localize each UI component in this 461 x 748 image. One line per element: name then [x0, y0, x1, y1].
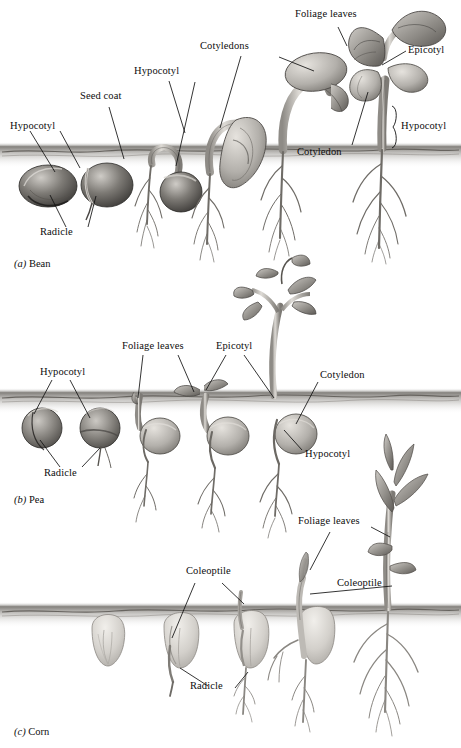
label-bean-cotyledon: Cotyledon	[297, 146, 342, 157]
label-bean-cotyledons: Cotyledons	[200, 40, 249, 51]
label-pea-hypocotyl-right: Hypocotyl	[305, 448, 350, 459]
bean-stage-1	[19, 165, 77, 207]
label-pea-cotyledon: Cotyledon	[320, 369, 365, 380]
label-pea-foliage-leaves: Foliage leaves	[122, 340, 184, 351]
bean-stage-4	[192, 117, 266, 262]
caption-corn: (c) Corn	[14, 726, 49, 737]
label-corn-coleoptile-left: Coleoptile	[186, 565, 231, 576]
label-bean-foliage-leaves: Foliage leaves	[295, 8, 357, 19]
pea-stage-1	[22, 408, 62, 450]
pea-stage-2	[80, 408, 120, 468]
soil-line-pea	[0, 388, 461, 414]
caption-pea: (b) Pea	[14, 494, 44, 505]
germination-figure: Hypocotyl Radicle Seed coat Hypocotyl Co…	[0, 0, 461, 748]
label-corn-foliage-leaves: Foliage leaves	[298, 515, 360, 526]
label-corn-radicle: Radicle	[190, 680, 223, 691]
label-bean-seed-coat: Seed coat	[80, 90, 121, 101]
label-bean-epicotyl: Epicotyl	[408, 44, 444, 55]
caption-corn-tag: (c)	[14, 726, 26, 737]
caption-corn-name: Corn	[28, 726, 49, 737]
caption-pea-tag: (b)	[14, 494, 26, 505]
caption-pea-name: Pea	[29, 494, 44, 505]
bean-hypocotyl-brace	[392, 106, 396, 148]
bean-stage-2	[81, 163, 133, 220]
caption-bean: (a) Bean	[14, 258, 50, 269]
label-pea-radicle: Radicle	[44, 467, 77, 478]
soil-line-corn	[0, 602, 461, 628]
corn-stage-1	[92, 615, 125, 667]
label-corn-coleoptile-right: Coleoptile	[337, 577, 382, 588]
label-pea-hypocotyl-left: Hypocotyl	[40, 366, 85, 377]
label-bean-hypocotyl-mid: Hypocotyl	[134, 65, 179, 76]
caption-bean-tag: (a)	[14, 258, 26, 269]
label-bean-hypocotyl-left: Hypocotyl	[10, 120, 55, 131]
label-bean-radicle: Radicle	[40, 226, 73, 237]
label-pea-epicotyl: Epicotyl	[216, 340, 252, 351]
label-bean-hypocotyl-right: Hypocotyl	[401, 120, 446, 131]
caption-bean-name: Bean	[29, 258, 51, 269]
corn-stage-4	[268, 552, 335, 732]
